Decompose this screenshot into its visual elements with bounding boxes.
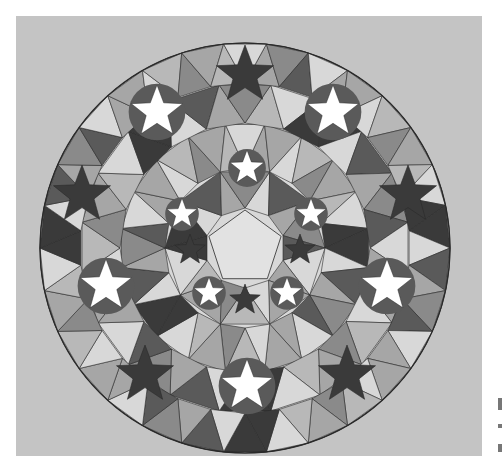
edge-mark xyxy=(498,398,502,410)
edge-mark xyxy=(498,424,502,428)
edge-mark xyxy=(498,444,502,452)
star-mandala-artwork xyxy=(0,0,502,469)
